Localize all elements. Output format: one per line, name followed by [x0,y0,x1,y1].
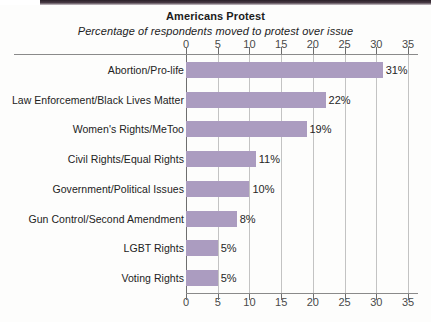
bar-value-label: 5% [221,272,237,284]
tick-mark-bottom [376,294,377,300]
category-label: Law Enforcement/Black Lives Matter [12,94,184,106]
tick-mark-top [313,47,314,54]
bar-value-label: 10% [252,183,274,195]
bar-value-label: 19% [310,123,332,135]
scan-edge-artifact-left [0,0,40,5]
category-label: Abortion/Pro-life [108,64,184,76]
bottom-axis-line [186,293,418,294]
bar-row: Voting Rights5% [0,263,431,293]
tick-mark-bottom [345,294,346,300]
bar [186,270,218,286]
tick-mark-top [345,47,346,54]
tick-mark-top [186,47,187,54]
bar-row: Law Enforcement/Black Lives Matter22% [0,85,431,115]
x-axis-bottom: 05101520253035 [0,296,431,310]
tick-mark-bottom [281,294,282,300]
bar-value-label: 11% [259,153,280,165]
tick-mark-top [281,47,282,54]
bar [186,151,256,167]
category-label: LGBT Rights [124,242,184,254]
bar [186,181,249,197]
bar-row: Civil Rights/Equal Rights11% [0,144,431,174]
bar-row: Gun Control/Second Amendment8% [0,204,431,234]
bar [186,211,237,227]
tick-mark-bottom [408,294,409,300]
x-axis-top: 05101520253035 [0,38,431,52]
category-label: Voting Rights [121,272,184,284]
tick-mark-bottom [218,294,219,300]
chart-subtitle: Percentage of respondents moved to prote… [0,25,431,37]
bar-value-label: 31% [386,64,408,76]
chart-title: Americans Protest [0,10,431,22]
tick-mark-bottom [313,294,314,300]
bar-row: LGBT Rights5% [0,234,431,264]
bar-row: Abortion/Pro-life31% [0,55,431,85]
category-label: Gun Control/Second Amendment [29,213,185,225]
bar-value-label: 8% [240,213,256,225]
bar-value-label: 22% [329,94,351,106]
category-label: Women's Rights/MeToo [73,123,184,135]
bar-row: Government/Political Issues10% [0,174,431,204]
chart-figure: Americans Protest Percentage of responde… [0,0,431,322]
tick-mark-bottom [186,294,187,300]
tick-mark-top [218,47,219,54]
category-label: Government/Political Issues [53,183,185,195]
tick-mark-bottom [249,294,250,300]
bar [186,92,326,108]
bar [186,62,383,78]
bar-row: Women's Rights/MeToo19% [0,115,431,145]
category-label: Civil Rights/Equal Rights [68,153,184,165]
bar [186,240,218,256]
bar [186,121,307,137]
bar-value-label: 5% [221,242,237,254]
tick-mark-top [249,47,250,54]
scan-edge-artifact [0,0,431,5]
tick-mark-top [408,47,409,54]
tick-mark-top [376,47,377,54]
